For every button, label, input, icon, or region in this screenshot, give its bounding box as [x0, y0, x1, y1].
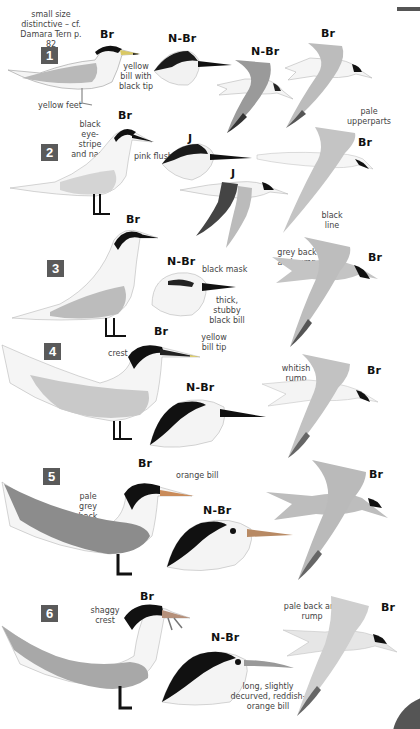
plate-1-head-age-label: N-Br [168, 32, 196, 45]
plate-4-nonbreeding-head-illustration [148, 395, 268, 450]
plate-3-perched-tern-illustration [0, 222, 170, 342]
plate-1-upperparts-note: pale upperparts [345, 107, 393, 127]
page-edge-tab [397, 7, 420, 11]
plate-1-perched-tern-illustration [0, 0, 150, 115]
plate-5-perched-age-label: Br [138, 457, 152, 470]
plate-5-breeding-flight-illustration [262, 458, 392, 583]
plate-2-juvenile-head-illustration [160, 142, 255, 182]
plate-1-flight-br-age-label: Br [321, 27, 335, 40]
field-guide-page: small size distinctive – cf. Damara Tern… [0, 0, 420, 729]
plate-3-bill-note: thick, stubby black bill [205, 296, 249, 326]
plate-2-black-line-note: black line [320, 211, 344, 231]
plate-6-head-age-label: N-Br [211, 631, 239, 644]
plate-4-breeding-flight-illustration [258, 350, 388, 460]
plate-2-perched-tern-illustration [0, 110, 160, 220]
plate-6-breeding-flight-illustration [275, 592, 405, 722]
plate-3-breeding-flight-illustration [270, 235, 390, 350]
plate-1-bill-note: yellow bill with black tip [118, 62, 154, 92]
plate-4-head-age-label: N-Br [186, 381, 214, 394]
